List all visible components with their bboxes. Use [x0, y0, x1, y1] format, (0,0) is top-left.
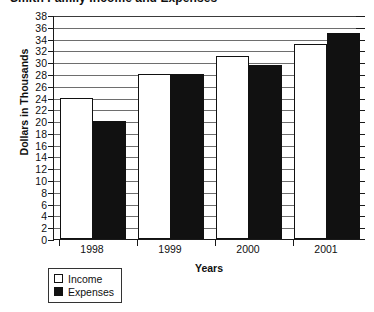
legend-label-expenses: Expenses [68, 286, 114, 298]
y-axis-tick-label: 30 [35, 58, 47, 69]
bar-series-group [54, 16, 365, 239]
legend-swatch-expenses-icon [54, 287, 63, 296]
y-axis-tick-label: 22 [35, 105, 47, 116]
legend-swatch-income-icon [54, 274, 63, 283]
x-axis-tick [59, 240, 60, 246]
bar-income-2000 [216, 56, 249, 239]
chart-title: Smith Family Income and Expenses [10, 0, 217, 5]
x-axis-tick [215, 240, 216, 246]
x-axis-tick [293, 240, 294, 246]
x-axis-tick [137, 240, 138, 246]
x-axis-tick-label: 1998 [80, 243, 103, 255]
y-axis-tick-label: 12 [35, 164, 47, 175]
bar-expenses-2000 [249, 65, 282, 239]
y-axis-tick-label: 38 [35, 11, 47, 22]
bar-income-1998 [60, 98, 93, 239]
y-axis-tick-label: 16 [35, 140, 47, 151]
bar-income-2001 [294, 44, 327, 239]
y-axis-tick-label: 0 [41, 235, 47, 246]
bar-expenses-2001 [327, 33, 360, 239]
y-axis-tick-label: 28 [35, 70, 47, 81]
y-axis-tick-label: 18 [35, 129, 47, 140]
y-axis-tick-label: 6 [41, 199, 47, 210]
x-axis-tick-labels: 1998199920002001 [53, 243, 365, 259]
plot-area [53, 16, 365, 240]
y-axis-tick-label: 4 [41, 211, 47, 222]
y-axis-tick-label: 2 [41, 223, 47, 234]
bar-income-1999 [138, 74, 171, 239]
y-axis-tick-label: 34 [35, 34, 47, 45]
chart-legend: Income Expenses [48, 268, 122, 303]
bar-expenses-1998 [93, 121, 126, 239]
y-axis-tick-label: 20 [35, 117, 47, 128]
y-axis-tick-label: 10 [35, 176, 47, 187]
y-axis-title: Dollars in Thousands [18, 32, 30, 172]
bar-chart-figure: Smith Family Income and Expenses 3836343… [0, 0, 374, 312]
y-axis-tick-label: 14 [35, 152, 47, 163]
x-axis-tick-label: 2001 [314, 243, 337, 255]
y-axis-tick [48, 240, 54, 241]
y-axis-tick-label: 36 [35, 23, 47, 34]
x-axis-tick-label: 2000 [236, 243, 259, 255]
y-axis-tick-label: 32 [35, 46, 47, 57]
y-axis-tick-label: 24 [35, 93, 47, 104]
y-axis-tick-label: 8 [41, 188, 47, 199]
bar-expenses-1999 [171, 74, 204, 239]
y-axis-tick-label: 26 [35, 81, 47, 92]
x-axis-tick-label: 1999 [158, 243, 181, 255]
legend-item-expenses: Expenses [54, 285, 114, 298]
legend-label-income: Income [68, 273, 102, 285]
legend-item-income: Income [54, 272, 114, 285]
